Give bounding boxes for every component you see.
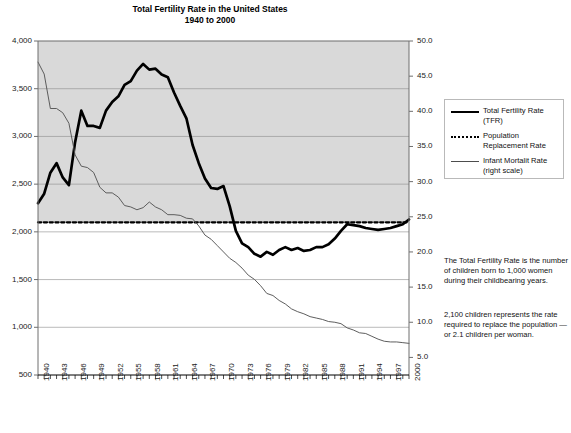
y-axis-left-tick-label: 1,000 <box>2 322 32 331</box>
x-axis-tick-label: 1946 <box>79 363 88 381</box>
legend-item-infant-mortality: Infant Mortalit Rate (right scale) <box>451 156 563 175</box>
legend-item-label: Infant Mortalit Rate (right scale) <box>483 156 547 175</box>
legend-item-label: Total Fertility Rate (TFR) <box>483 106 544 125</box>
x-axis-tick-label: 1988 <box>338 363 347 381</box>
legend-swatch-thin-line-icon <box>451 156 479 168</box>
y-axis-left-tick-label: 2,000 <box>2 227 32 236</box>
legend-swatch-line-icon <box>451 106 479 118</box>
y-axis-right-tick-label: 45.0 <box>417 71 451 80</box>
y-axis-left-tick-label: 2,500 <box>2 179 32 188</box>
x-axis-tick-label: 1958 <box>153 363 162 381</box>
legend-item-label: Population Replacement Rate <box>483 131 546 150</box>
x-axis-tick-label: 1970 <box>227 363 236 381</box>
note-tfr-definition: The Total Fertility Rate is the number o… <box>444 256 568 287</box>
x-axis-tick-label: 1952 <box>116 363 125 381</box>
x-axis-tick-label: 1961 <box>171 363 180 381</box>
y-axis-right-tick-label: 20.0 <box>417 247 451 256</box>
y-axis-left-tick-label: 500 <box>2 370 32 379</box>
chart-legend: Total Fertility Rate (TFR) Population Re… <box>444 99 564 179</box>
x-axis-tick-label: 1943 <box>60 363 69 381</box>
x-axis-tick-label: 1976 <box>264 363 273 381</box>
x-axis-tick-label: 1973 <box>246 363 255 381</box>
y-axis-left-tick-label: 3,500 <box>2 84 32 93</box>
y-axis-right-tick-label: 5.0 <box>417 352 451 361</box>
legend-swatch-dotted-line-icon <box>451 131 479 143</box>
x-axis-tick-label: 1985 <box>320 363 329 381</box>
legend-item-replacement-rate: Population Replacement Rate <box>451 131 563 150</box>
x-axis-tick-label: 1997 <box>394 363 403 381</box>
x-axis-tick-label: 2000 <box>413 363 422 381</box>
x-axis-tick-label: 1940 <box>42 363 51 381</box>
x-axis-tick-label: 1994 <box>375 363 384 381</box>
y-axis-left-tick-label: 4,000 <box>2 36 32 45</box>
note-replacement-explanation: 2,100 children represents the rate requi… <box>444 310 568 341</box>
chart-page: Total Fertility Rate in the United State… <box>0 0 571 433</box>
x-axis-tick-label: 1949 <box>97 363 106 381</box>
x-axis-tick-label: 1991 <box>357 363 366 381</box>
x-axis-tick-label: 1967 <box>208 363 217 381</box>
x-axis-tick-label: 1982 <box>301 363 310 381</box>
x-axis-tick-label: 1955 <box>134 363 143 381</box>
y-axis-left-tick-label: 3,000 <box>2 131 32 140</box>
legend-item-tfr: Total Fertility Rate (TFR) <box>451 106 563 125</box>
x-axis-tick-label: 1979 <box>283 363 292 381</box>
x-axis-tick-label: 1964 <box>190 363 199 381</box>
y-axis-left-tick-label: 1,500 <box>2 275 32 284</box>
y-axis-right-tick-label: 50.0 <box>417 36 451 45</box>
y-axis-right-tick-label: 25.0 <box>417 212 451 221</box>
